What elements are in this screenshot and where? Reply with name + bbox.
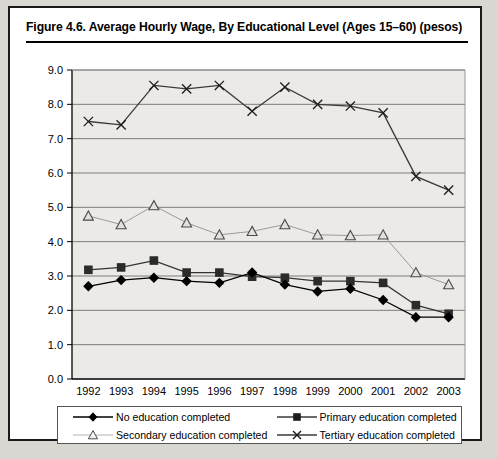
x-axis-tick-label: 2002 <box>404 385 428 397</box>
legend-item-no-education[interactable]: No education completed <box>58 410 260 424</box>
x-axis-tick-label: 1993 <box>109 385 133 397</box>
filled-square-icon <box>274 410 320 424</box>
data-point-marker <box>379 279 388 288</box>
y-axis-tick-label: 9.0 <box>48 64 63 76</box>
data-point-marker <box>215 268 224 277</box>
legend-row: No education completed Primary education… <box>58 407 461 426</box>
y-axis-tick-label: 8.0 <box>48 98 63 110</box>
legend-item-secondary-education[interactable]: Secondary education completed <box>58 428 260 442</box>
chart-plot-area: 0.01.02.03.04.05.06.07.08.09.01992199319… <box>10 46 484 439</box>
y-axis-tick-label: 3.0 <box>48 270 63 282</box>
data-point-marker <box>182 268 191 277</box>
x-axis-tick-label: 2000 <box>338 385 362 397</box>
chart-legend: No education completed Primary education… <box>57 406 462 444</box>
legend-label: No education completed <box>116 411 230 423</box>
x-axis-tick-label: 1997 <box>240 385 264 397</box>
x-axis-tick-label: 1996 <box>207 385 231 397</box>
legend-label: Secondary education completed <box>116 429 267 441</box>
cross-x-icon <box>274 428 320 442</box>
y-axis-tick-label: 1.0 <box>48 339 63 351</box>
data-point-marker <box>117 263 126 272</box>
y-axis-tick-label: 4.0 <box>48 236 63 248</box>
x-axis-tick-label: 1994 <box>142 385 166 397</box>
legend-item-primary-education[interactable]: Primary education completed <box>260 410 462 424</box>
open-triangle-icon <box>70 428 116 442</box>
page-title: Figure 4.6. Average Hourly Wage, By Educ… <box>26 20 466 34</box>
y-axis-tick-label: 2.0 <box>48 304 63 316</box>
figure-card: Figure 4.6. Average Hourly Wage, By Educ… <box>8 6 482 441</box>
data-point-marker <box>84 266 93 275</box>
x-axis-tick-label: 2001 <box>371 385 395 397</box>
x-axis-tick-label: 1995 <box>174 385 198 397</box>
y-axis-tick-label: 7.0 <box>48 133 63 145</box>
title-divider <box>26 41 468 43</box>
legend-row: Secondary education completed Tertiary e… <box>58 425 461 444</box>
line-chart: 0.01.02.03.04.05.06.07.08.09.01992199319… <box>10 46 484 439</box>
x-axis-tick-label: 2003 <box>436 385 460 397</box>
data-point-marker <box>412 301 421 310</box>
legend-label: Tertiary education completed <box>320 429 455 441</box>
data-point-marker <box>150 256 159 265</box>
legend-item-tertiary-education[interactable]: Tertiary education completed <box>260 428 462 442</box>
data-point-marker <box>313 277 322 286</box>
x-axis-tick-label: 1999 <box>305 385 329 397</box>
x-axis-tick-label: 1992 <box>76 385 100 397</box>
legend-label: Primary education completed <box>320 411 457 423</box>
y-axis-tick-label: 6.0 <box>48 167 63 179</box>
filled-diamond-icon <box>70 410 116 424</box>
y-axis-tick-label: 5.0 <box>48 201 63 213</box>
x-axis-tick-label: 1998 <box>273 385 297 397</box>
y-axis-tick-label: 0.0 <box>48 373 63 385</box>
